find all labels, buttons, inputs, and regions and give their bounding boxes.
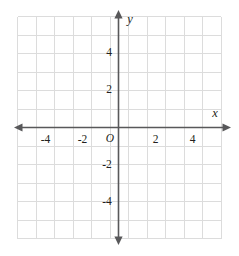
coordinate-plane-figure: y x O -4 -2 2 4 4 2 -2 -4 xyxy=(0,0,239,256)
x-tick-label-neg2: -2 xyxy=(78,133,88,145)
x-axis-label: x xyxy=(211,106,218,120)
coordinate-plane-svg: y x O -4 -2 2 4 4 2 -2 -4 xyxy=(0,0,239,256)
y-tick-label-pos2: 2 xyxy=(106,83,112,95)
x-tick-label-pos2: 2 xyxy=(153,133,159,145)
y-axis-label: y xyxy=(125,12,133,26)
y-tick-label-neg4: -4 xyxy=(102,195,112,207)
origin-label: O xyxy=(106,132,115,144)
x-tick-label-pos4: 4 xyxy=(190,133,196,145)
y-tick-label-neg2: -2 xyxy=(102,158,112,170)
x-tick-label-neg4: -4 xyxy=(41,133,51,145)
y-tick-label-pos4: 4 xyxy=(106,46,112,58)
